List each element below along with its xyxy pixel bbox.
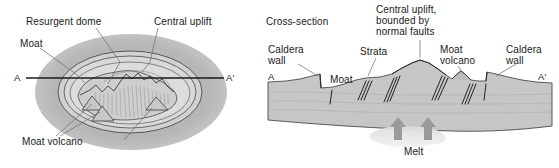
section-start-label: A	[268, 71, 274, 83]
map-label-moat: Moat	[20, 38, 43, 50]
map-label-central-uplift: Central uplift	[154, 16, 212, 28]
caldera-figure: Resurgent dome Central uplift Moat Moat …	[0, 0, 559, 168]
section-label-central-uplift-line2: bounded by	[376, 15, 429, 27]
section-label-caldera-wall-right-line2: wall	[506, 55, 524, 67]
section-label-central-uplift-line3: normal faults	[376, 26, 435, 38]
section-label-moat: Moat	[330, 74, 353, 86]
map-label-moat-volcano: Moat volcano	[22, 136, 83, 148]
map-section-start-label: A	[14, 72, 20, 84]
section-label-melt: Melt	[404, 146, 423, 158]
map-label-resurgent-dome: Resurgent dome	[26, 16, 101, 28]
section-label-moat-volcano-line2: volcano	[440, 55, 475, 67]
section-label-caldera-wall-left-line2: wall	[268, 55, 286, 67]
section-end-label: A′	[538, 71, 546, 83]
moat-volcano-cone	[452, 71, 471, 80]
section-label-strata: Strata	[360, 46, 387, 58]
ground-body	[268, 60, 552, 131]
map-section-end-label: A′	[226, 72, 234, 84]
section-label-moat-volcano-line1: Moat	[440, 44, 463, 56]
map-view-panel	[26, 28, 227, 150]
section-label-caldera-wall-right-line1: Caldera	[506, 44, 542, 56]
section-label-central-uplift-line1: Central uplift,	[376, 4, 436, 16]
cross-section-title: Cross-section	[266, 16, 328, 28]
section-label-caldera-wall-left-line1: Caldera	[268, 44, 304, 56]
